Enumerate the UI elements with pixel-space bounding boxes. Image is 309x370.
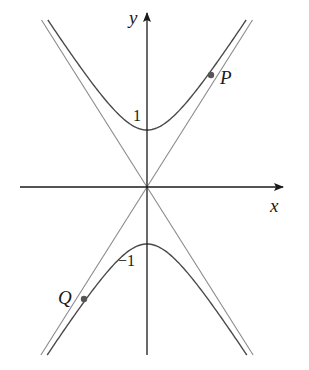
point-p-marker: [208, 72, 214, 78]
point-q-label: Q: [58, 288, 72, 307]
hyperbola-figure: y x 1 −1 P Q: [0, 0, 309, 370]
plot-canvas: [0, 0, 309, 370]
y-axis-label: y: [129, 8, 137, 27]
point-p-label: P: [220, 68, 232, 87]
x-axis-label: x: [270, 196, 278, 215]
point-q-marker: [81, 296, 87, 302]
tick-label-minus-1: −1: [118, 253, 135, 269]
tick-label-1: 1: [133, 108, 141, 124]
